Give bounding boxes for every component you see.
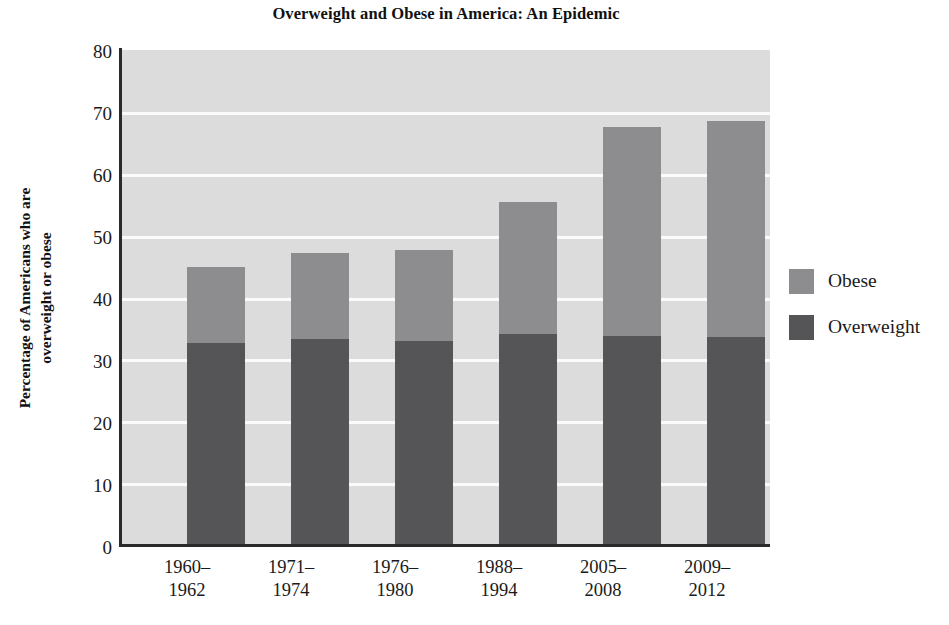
x-tick-label-line2: 1974 — [237, 579, 345, 602]
x-tick-label-line1: 1976– — [341, 556, 449, 579]
gridline-70 — [122, 112, 770, 115]
y-tick-label: 80 — [66, 42, 112, 61]
bar-group[interactable] — [395, 250, 453, 545]
legend: Obese Overweight — [789, 258, 920, 350]
bar-group[interactable] — [707, 121, 765, 545]
bar-group[interactable] — [499, 202, 557, 545]
x-tick-label-line2: 1962 — [133, 579, 241, 602]
bar-segment-obese[interactable] — [603, 127, 661, 336]
x-tick-label-line2: 2008 — [549, 579, 657, 602]
y-tick-label: 40 — [66, 290, 112, 309]
x-tick-label-line2: 2012 — [653, 579, 761, 602]
bar-segment-overweight[interactable] — [291, 339, 349, 545]
chart-container: Overweight and Obese in America: An Epid… — [0, 0, 949, 625]
y-tick-label: 50 — [66, 228, 112, 247]
x-tick-label: 2005– 2008 — [549, 556, 657, 602]
bar-segment-overweight[interactable] — [187, 343, 245, 545]
bar-segment-overweight[interactable] — [603, 336, 661, 545]
bar-group[interactable] — [603, 127, 661, 545]
x-tick-label-line2: 1980 — [341, 579, 449, 602]
y-tick-label: 20 — [66, 414, 112, 433]
legend-item-obese[interactable]: Obese — [789, 258, 920, 304]
bar-group[interactable] — [291, 253, 349, 545]
x-tick-label: 2009– 2012 — [653, 556, 761, 602]
bar-segment-obese[interactable] — [707, 121, 765, 338]
x-tick-label: 1971– 1974 — [237, 556, 345, 602]
x-tick-label-line1: 2009– — [653, 556, 761, 579]
bar-segment-obese[interactable] — [499, 202, 557, 334]
y-tick-label: 10 — [66, 476, 112, 495]
bar-segment-obese[interactable] — [395, 250, 453, 340]
x-tick-label-line1: 2005– — [549, 556, 657, 579]
y-axis-title-line1: Percentage of Americans who are — [16, 187, 33, 408]
bar-segment-overweight[interactable] — [395, 341, 453, 545]
legend-swatch-icon — [789, 315, 814, 340]
x-tick-label-line1: 1960– — [133, 556, 241, 579]
y-tick-label: 0 — [66, 538, 112, 557]
chart-title: Overweight and Obese in America: An Epid… — [122, 4, 770, 24]
x-tick-label: 1960– 1962 — [133, 556, 241, 602]
x-axis-line — [119, 544, 770, 547]
y-tick-label: 70 — [66, 104, 112, 123]
legend-label: Overweight — [828, 316, 920, 338]
legend-item-overweight[interactable]: Overweight — [789, 304, 920, 350]
x-tick-label-line1: 1971– — [237, 556, 345, 579]
x-tick-label-line2: 1994 — [445, 579, 553, 602]
bar-group[interactable] — [187, 267, 245, 545]
bar-segment-obese[interactable] — [187, 267, 245, 343]
bar-segment-obese[interactable] — [291, 253, 349, 339]
y-axis-title-line2: overweight or obese — [36, 63, 57, 533]
y-axis-line — [119, 48, 122, 547]
y-tick-label: 60 — [66, 166, 112, 185]
x-tick-label: 1976– 1980 — [341, 556, 449, 602]
y-axis-title: Percentage of Americans who are overweig… — [8, 50, 64, 545]
bar-segment-overweight[interactable] — [499, 334, 557, 545]
legend-swatch-icon — [789, 269, 814, 294]
gridline-50 — [122, 236, 770, 239]
x-tick-label: 1988– 1994 — [445, 556, 553, 602]
y-axis-tick-labels: 80 70 60 50 40 30 20 10 0 — [60, 0, 112, 625]
bar-segment-overweight[interactable] — [707, 337, 765, 545]
x-tick-label-line1: 1988– — [445, 556, 553, 579]
legend-label: Obese — [828, 270, 877, 292]
y-tick-label: 30 — [66, 352, 112, 371]
plot-area — [122, 50, 770, 545]
gridline-60 — [122, 174, 770, 177]
